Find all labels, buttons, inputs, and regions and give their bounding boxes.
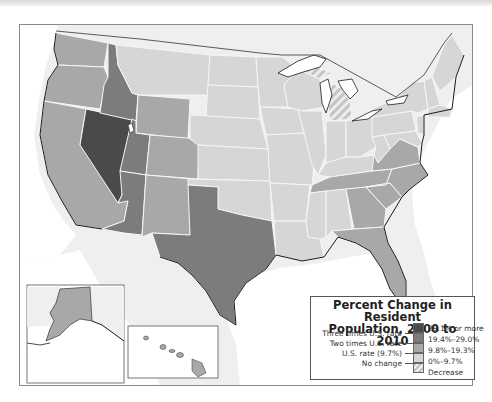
legend-swatch-decrease (413, 363, 424, 373)
state-wyoming (136, 95, 190, 139)
legend-ref-no-change: No change (362, 359, 402, 368)
legend-ref-tick (405, 333, 413, 334)
state-arkansas (270, 183, 310, 221)
state-south-dakota (206, 85, 260, 119)
legend-ref-two-times: Two times U.S. rate (330, 339, 402, 348)
legend-class-label: 9.8%–19.3% (428, 346, 475, 355)
legend-ref-tick (405, 363, 413, 364)
legend-ref-tick (405, 343, 413, 344)
legend-swatch-tier4 (413, 353, 424, 363)
legend-class-label: 0%–9.7% (428, 357, 463, 366)
state-new-mexico (142, 175, 192, 237)
legend-class-label: 19.4%–29.0% (428, 335, 479, 344)
page-top-strip (0, 0, 492, 6)
state-indiana (326, 121, 346, 163)
legend-ref-three-times: Three times U.S. rate (322, 329, 402, 338)
hawaii-inset (128, 326, 218, 378)
legend-class-label: 29.1% or more (428, 324, 484, 333)
state-north-dakota (208, 55, 258, 87)
legend-title-line-1: Percent Change in Resident (311, 299, 474, 323)
legend-swatch-tier2 (413, 333, 424, 343)
legend-swatch-tier1 (413, 323, 424, 333)
legend-class-label: Decrease (428, 368, 463, 377)
map-legend: Percent Change in Resident Population, 2… (310, 296, 475, 380)
state-colorado (146, 135, 200, 179)
legend-ref-tick (405, 353, 413, 354)
alaska-inset (27, 285, 124, 383)
state-nebraska (190, 115, 268, 149)
legend-ref-us-rate: U.S. rate (9.7%) (342, 349, 402, 358)
state-kansas (198, 145, 270, 181)
state-mississippi (306, 191, 326, 239)
state-iowa (260, 107, 304, 135)
legend-swatch-tier3 (413, 343, 424, 353)
